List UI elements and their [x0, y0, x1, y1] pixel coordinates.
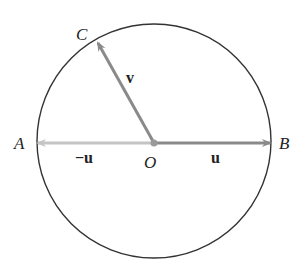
label-neg-u: −u [75, 149, 93, 166]
origin-point [151, 140, 158, 147]
label-a: A [13, 134, 25, 153]
label-o: O [144, 153, 156, 172]
label-u: u [211, 149, 220, 166]
circle-vector-diagram: C A B O v −u u [0, 0, 308, 269]
label-c: C [76, 25, 88, 44]
label-v: v [126, 69, 134, 86]
vector-v [98, 43, 154, 143]
label-b: B [279, 134, 290, 153]
